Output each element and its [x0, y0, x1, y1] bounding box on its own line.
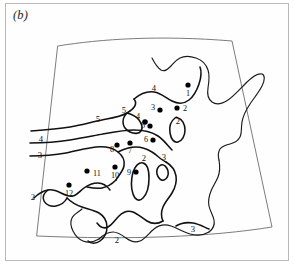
station-label-8: 8: [110, 145, 114, 154]
station-label-6: 6: [144, 135, 148, 144]
contour-line-5-upper: [31, 99, 136, 131]
contour-line-2-west-loop: [43, 190, 67, 206]
contour-label-3-central: 3: [162, 152, 166, 162]
station-marker[interactable]: 11: [84, 168, 100, 178]
contour-line-2-central-south: [162, 162, 177, 221]
station-dot-10[interactable]: [112, 164, 117, 169]
contour-map: 1 2 3 4 5 6 7: [0, 0, 296, 269]
contour-label-group: 4 5 5 2 4 3 2 3 2 3 2: [31, 83, 195, 245]
contour-label-2-far-west: 2: [31, 192, 35, 202]
station-label-4: 4: [136, 112, 140, 121]
station-marker[interactable]: 1: [185, 82, 190, 98]
station-dot-5[interactable]: [147, 123, 152, 128]
station-dot-2[interactable]: [174, 105, 179, 110]
contour-label-4-west: 4: [39, 134, 44, 144]
station-label-11: 11: [93, 169, 101, 178]
station-group: 1 2 3 4 5 6 7: [65, 82, 191, 198]
station-label-12: 12: [65, 189, 73, 198]
station-dot-8[interactable]: [114, 142, 119, 147]
contour-label-2-central: 2: [142, 153, 146, 163]
station-dot-1[interactable]: [185, 82, 190, 87]
station-label-7: 7: [128, 146, 132, 155]
station-marker[interactable]: 7: [127, 140, 132, 155]
station-marker[interactable]: 12: [65, 182, 73, 198]
contour-label-5-mid: 5: [122, 105, 126, 115]
contour-loop-2-central: [132, 163, 150, 200]
contour-label-2-loop-north: 2: [176, 116, 180, 126]
station-label-2: 2: [183, 104, 187, 113]
contour-line-4-north: [134, 67, 201, 103]
contour-label-3-west: 3: [38, 150, 42, 160]
contour-label-3-south-east: 3: [191, 224, 195, 234]
station-label-9: 9: [127, 168, 131, 177]
station-label-10: 10: [111, 171, 119, 180]
contour-label-2-south: 2: [115, 235, 119, 245]
station-label-5: 5: [141, 121, 145, 130]
station-marker[interactable]: 6: [144, 135, 156, 144]
station-label-1: 1: [186, 89, 190, 98]
station-label-3: 3: [151, 103, 155, 112]
coastline-east-lower: [209, 160, 220, 232]
station-dot-9[interactable]: [133, 169, 138, 174]
contour-label-4-north: 4: [152, 83, 157, 93]
station-marker[interactable]: 3: [151, 103, 163, 113]
figure-root: (b): [0, 0, 296, 269]
station-dot-6[interactable]: [150, 137, 155, 142]
contour-loop-3-central: [157, 165, 169, 180]
station-marker[interactable]: 2: [174, 104, 187, 113]
station-marker[interactable]: 10: [111, 164, 119, 180]
station-dot-3[interactable]: [157, 107, 162, 112]
station-dot-11[interactable]: [84, 168, 89, 173]
coastline-north-east: [152, 57, 264, 161]
contour-label-5-west: 5: [96, 114, 100, 124]
station-dot-7[interactable]: [127, 140, 132, 145]
station-dot-12[interactable]: [66, 182, 71, 187]
contour-group: [30, 67, 209, 243]
